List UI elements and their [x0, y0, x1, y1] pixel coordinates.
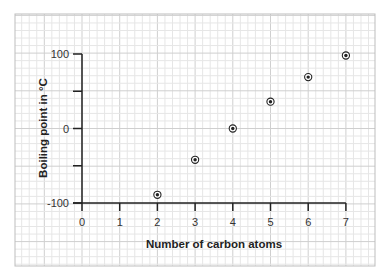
data-point: [192, 156, 199, 163]
data-point: [229, 125, 236, 132]
x-axis-title: Number of carbon atoms: [146, 238, 282, 250]
graph-paper-grid: [15, 14, 375, 266]
x-tick-label: 5: [267, 216, 273, 228]
x-tick-label: 0: [79, 216, 85, 228]
y-axis-title: Boiling point in °C: [37, 78, 49, 178]
y-tick-label: 100: [51, 48, 69, 60]
data-point: [267, 98, 274, 105]
scatter-chart: 1000-10001234567 Number of carbon atoms …: [0, 0, 388, 280]
y-tick-label: -100: [47, 197, 69, 209]
x-tick-label: 7: [343, 216, 349, 228]
x-tick-label: 3: [192, 216, 198, 228]
x-tick-label: 4: [230, 216, 236, 228]
data-point: [305, 73, 312, 80]
x-tick-label: 2: [154, 216, 160, 228]
y-tick-label: 0: [63, 123, 69, 135]
x-tick-label: 1: [117, 216, 123, 228]
data-point: [342, 52, 349, 59]
data-point: [154, 191, 161, 198]
axes: 1000-10001234567: [47, 48, 349, 228]
x-tick-label: 6: [305, 216, 311, 228]
data-points: [154, 52, 350, 199]
